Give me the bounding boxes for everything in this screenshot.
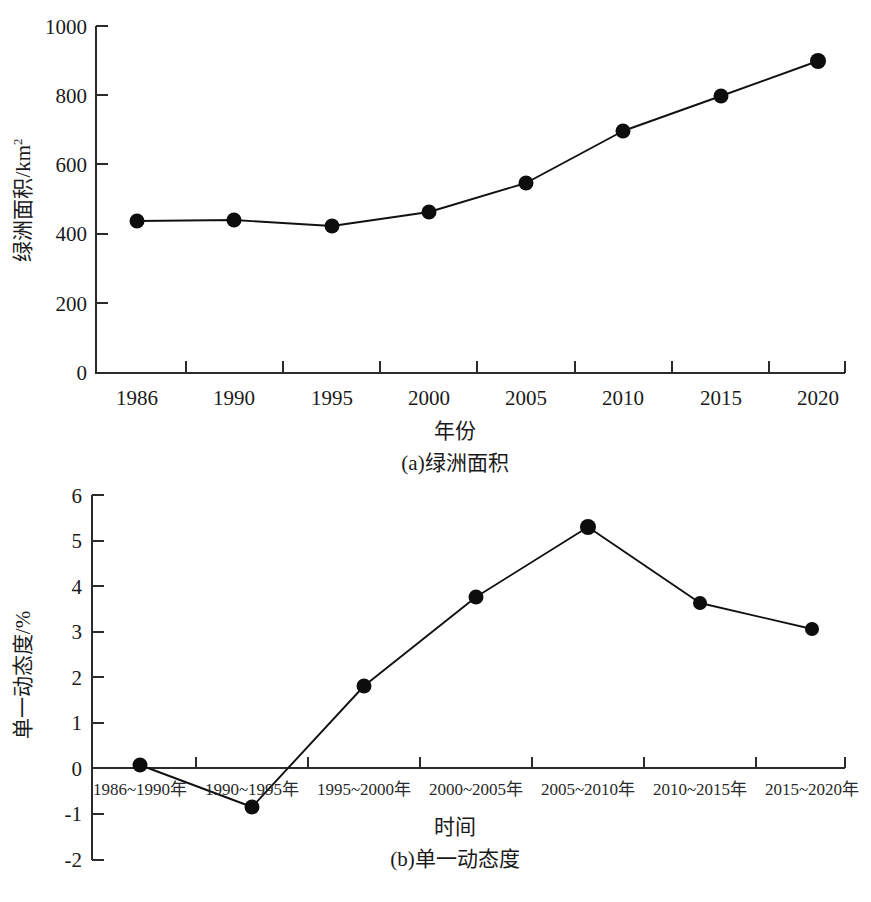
panel-b-series-line (140, 527, 812, 807)
panel-a-y-axis-title: 绿洲面积/km2 (10, 138, 35, 261)
panel-b-xtick-3: 2000~2005年 (429, 780, 523, 799)
panel-b-xtick-1: 1990~1995年 (205, 780, 299, 799)
panel-b-ytick-4: 4 (72, 575, 83, 599)
panel-a-ytick-600: 600 (56, 153, 88, 177)
panel-b-xtick-5: 2010~2015年 (653, 780, 747, 799)
panel-b-xtick-4: 2005~2010年 (541, 780, 635, 799)
panel-b-ytick-0: 0 (72, 757, 83, 781)
chart-svg: 绿洲面积/km2 1000 800 600 400 200 0 (0, 0, 871, 902)
panel-b-ytick-1: 1 (72, 711, 83, 735)
panel-a-point-2000 (422, 205, 437, 220)
panel-a-ylabel-text: 绿洲面积/km (11, 145, 35, 262)
svg-text:绿洲面积/km2: 绿洲面积/km2 (10, 138, 35, 261)
panel-a-xtick-6: 2015 (700, 386, 742, 410)
panel-b-ytick-2: 2 (72, 666, 83, 690)
panel-a-point-2020 (810, 53, 826, 69)
panel-b-point-1986-1990 (133, 758, 148, 773)
panel-a-ytick-400: 400 (56, 222, 88, 246)
panel-a-xtick-2: 1995 (311, 386, 353, 410)
panel-a-xtick-0: 1986 (116, 386, 158, 410)
panel-b-ytick-6: 6 (72, 484, 83, 508)
panel-b-ytick-5: 5 (72, 529, 83, 553)
panel-b-point-1990-1995 (245, 800, 260, 815)
panel-b-xtick-2: 1995~2000年 (317, 780, 411, 799)
panel-a-caption: (a)绿洲面积 (401, 451, 508, 475)
figure-container: 绿洲面积/km2 1000 800 600 400 200 0 (0, 0, 871, 902)
panel-b: 单一动态度/% 6 5 4 3 2 1 0 -1 -2 (11, 484, 859, 872)
panel-b-ytick-m2: -2 (65, 848, 83, 872)
panel-a-xtick-5: 2010 (602, 386, 644, 410)
panel-a-point-2010 (616, 124, 631, 139)
panel-a-xtick-7: 2020 (797, 386, 839, 410)
panel-b-point-2015-2020 (805, 622, 819, 636)
panel-b-xlabel: 时间 (434, 815, 476, 839)
panel-a-xlabel: 年份 (434, 419, 476, 443)
panel-a-y-ticks (96, 26, 108, 303)
panel-a-ytick-800: 800 (56, 84, 88, 108)
panel-b-ytick-3: 3 (72, 620, 83, 644)
panel-a-point-1986 (130, 214, 145, 229)
panel-a-point-1990 (227, 213, 242, 228)
panel-b-xtick-0: 1986~1990年 (93, 780, 187, 799)
panel-a-point-2005 (519, 176, 534, 191)
panel-a-ytick-1000: 1000 (45, 15, 87, 39)
panel-a-xtick-4: 2005 (505, 386, 547, 410)
panel-b-caption: (b)单一动态度 (390, 847, 520, 871)
panel-b-point-2010-2015 (693, 596, 707, 610)
panel-b-xtick-6: 2015~2020年 (765, 780, 859, 799)
panel-b-point-1995-2000 (357, 679, 372, 694)
panel-b-point-2000-2005 (469, 590, 484, 605)
panel-a: 绿洲面积/km2 1000 800 600 400 200 0 (10, 15, 845, 475)
panel-a-xtick-1: 1990 (213, 386, 255, 410)
panel-a-x-ticks (186, 361, 769, 373)
panel-a-ytick-0: 0 (77, 361, 88, 385)
panel-a-point-1995 (325, 219, 340, 234)
panel-a-xtick-3: 2000 (408, 386, 450, 410)
panel-b-ytick-m1: -1 (65, 802, 83, 826)
panel-b-markers (133, 519, 820, 815)
panel-a-series-line (137, 61, 818, 226)
panel-b-point-2005-2010 (580, 519, 596, 535)
panel-a-point-2015 (714, 89, 729, 104)
panel-b-y-ticks (92, 541, 104, 814)
panel-a-ytick-200: 200 (56, 292, 88, 316)
panel-a-markers (130, 53, 827, 234)
panel-b-ylabel: 单一动态度/% (11, 611, 35, 739)
panel-a-ylabel-sup: 2 (10, 138, 25, 145)
